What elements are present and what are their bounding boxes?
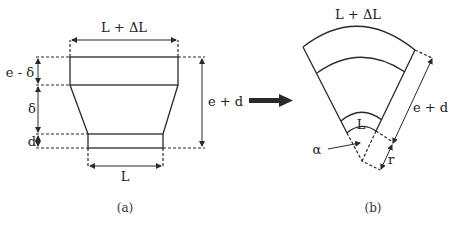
e-minus-delta-label: e - δ [6,65,34,80]
d-label: d [28,134,36,149]
bottom-block [88,134,163,148]
angle-label: α [313,142,322,157]
inner-band-arc [317,57,405,73]
tapered-section [70,85,178,134]
arrow-right-icon [279,94,293,107]
arrow-shaft [249,98,281,103]
bending-diagram: L + ΔL L e - δ δ d e + d (a) [0,0,449,227]
caption-b: (b) [364,201,381,215]
transition-arrow [249,94,293,107]
top-width-label: L + ΔL [101,20,147,35]
delta-label: δ [28,101,36,116]
outer-arc [303,26,415,50]
right-guide-lines [163,57,205,148]
inner-arc-label: L [357,117,366,132]
radial-length-label: e + d [413,100,448,115]
top-width-extension-lines [70,40,178,57]
bottom-width-extension-lines [88,148,163,166]
bottom-width-label: L [121,169,130,184]
top-block [70,57,178,85]
figure-b: L L + ΔL e + d r α (b) [303,7,448,215]
left-edge [303,47,347,133]
total-height-label: e + d [208,94,243,109]
outer-arc-label: L + ΔL [335,7,381,22]
left-guide-lines [36,57,88,148]
figure-a: L + ΔL L e - δ δ d e + d (a) [6,20,243,215]
caption-a: (a) [117,201,134,215]
right-edge [376,50,415,131]
radius-label: r [388,152,395,167]
